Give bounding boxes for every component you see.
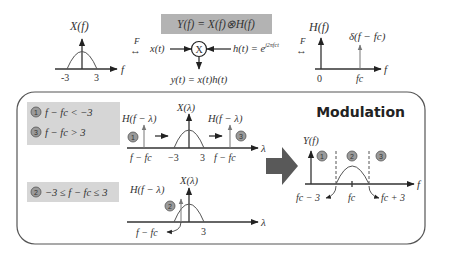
case-2-condition: −3 ≤ f − fc ≤ 3 (45, 187, 107, 198)
tick-f-minus-fc-right: f − fc (214, 152, 236, 163)
svg-text:3: 3 (34, 129, 38, 136)
h-shift-label-right: H(f − λ) (207, 113, 243, 125)
fourier-pair-right: F ↔ (296, 36, 307, 56)
equation-box: Y(f) = X(f)⊗H(f) (161, 14, 272, 34)
multiply-symbol: X (195, 44, 203, 55)
h-spectrum-plot: H(f) δ(f − fc) 0 fc f (308, 20, 389, 84)
h-spectrum-label: H(f) (308, 20, 329, 34)
tick-f-minus-fc-left: f − fc (130, 152, 152, 163)
tick-fc: fc (356, 73, 364, 84)
mixer-block: x(t) X h(t) = ej2πfct y(t) = x(t)h(t) (149, 42, 279, 87)
svg-text:1: 1 (320, 153, 324, 160)
h-shift-label: H(f − λ) (129, 184, 165, 196)
modulation-diagram: X(f) -3 3 f F ↔ Y(f) = X(f)⊗H(f) x(t) X … (0, 0, 449, 253)
svg-text:2: 2 (34, 189, 38, 196)
svg-text:3: 3 (379, 153, 383, 160)
convolution-equation: Y(f) = X(f)⊗H(f) (177, 18, 255, 31)
case-box-1-3: 1 f − fc < −3 3 f − fc > 3 (27, 102, 120, 145)
axis-label-lambda: λ (260, 216, 266, 228)
svg-text:2: 2 (350, 153, 354, 160)
tick-fc: fc (348, 192, 356, 203)
tick-neg3: −3 (168, 152, 179, 163)
output-label: y(t) = x(t)h(t) (170, 74, 228, 86)
x-lambda-label: X(λ) (179, 175, 198, 187)
tick-0: 0 (317, 73, 322, 84)
double-arrow-icon: ↔ (296, 44, 307, 56)
svg-text:1: 1 (34, 109, 38, 116)
svg-text:1: 1 (131, 134, 135, 141)
svg-text:2: 2 (168, 203, 172, 210)
case-1-condition: f − fc < −3 (45, 107, 93, 118)
panel-title: Modulation (316, 104, 405, 120)
input-h-label: h(t) = ej2πfct (233, 42, 279, 55)
h-shift-label-left: H(f − λ) (121, 113, 157, 125)
case-box-2: 2 −3 ≤ f − fc ≤ 3 (27, 182, 119, 202)
tick-3: 3 (201, 226, 206, 237)
x-spectrum-label: X(f) (69, 19, 89, 33)
tick-3: 3 (94, 72, 99, 83)
y-f-label: Y(f) (303, 135, 319, 147)
tick-fc-plus-3: fc + 3 (381, 192, 405, 203)
tick-3: 3 (200, 152, 205, 163)
tick-fc-minus-3: fc − 3 (296, 192, 320, 203)
impulse-label: δ(f − fc) (349, 30, 386, 43)
input-x-label: x(t) (149, 43, 165, 55)
case-3-condition: f − fc > 3 (45, 127, 85, 138)
fourier-pair-left: F ↔ (130, 36, 141, 56)
tick-f-minus-fc: f − fc (136, 227, 158, 238)
axis-label-f: f (384, 63, 389, 75)
tick-neg3: -3 (61, 72, 69, 83)
double-arrow-icon: ↔ (130, 44, 141, 56)
x-lambda-label: X(λ) (176, 102, 195, 114)
svg-text:3: 3 (239, 133, 243, 140)
x-spectrum-plot: X(f) -3 3 f (55, 19, 126, 83)
axis-label-f: f (121, 63, 126, 75)
axis-label-lambda: λ (260, 142, 266, 154)
